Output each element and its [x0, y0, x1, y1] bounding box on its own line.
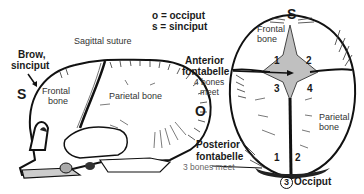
posterior-fontanelle-label-1: Posterior [196, 140, 240, 150]
bone-number-1: 1 [274, 56, 280, 66]
lateral-parietal-label: Parietal bone [109, 92, 162, 101]
anterior-fontanelle-label-1: Anterior [185, 56, 224, 66]
bone-number-3: 3 [274, 84, 280, 94]
anterior-fontanelle-label-2: fontabelle [182, 67, 229, 77]
occiput-label-group: 3Occiput [280, 176, 331, 189]
lateral-o-marker: O [195, 104, 206, 118]
posterior-bone-number-1: 1 [274, 153, 280, 163]
occiput-number-circle: 3 [280, 176, 293, 189]
anterior-note-1: 4 bones [194, 78, 224, 87]
posterior-fontanelle-label-2: fontabelle [196, 152, 243, 162]
posterior-bone-number-2: 2 [295, 153, 301, 163]
top-parietal-label-1: Parietal [319, 113, 350, 122]
lateral-frontal-label-1: Frontal [42, 87, 70, 96]
bone-number-2: 2 [306, 56, 312, 66]
top-frontal-label-2: bone [257, 35, 277, 44]
anterior-note-2: meet [200, 88, 219, 97]
bone-number-4: 4 [307, 84, 313, 94]
lateral-s-marker: S [17, 87, 26, 101]
lateral-frontal-label-2: bone [48, 97, 68, 106]
top-parietal-label-2: bone [319, 123, 339, 132]
posterior-note: 3 bones meet [183, 163, 235, 172]
top-frontal-label-1: Frontal [257, 25, 285, 34]
occiput-label: Occiput [294, 176, 331, 187]
top-s-marker: S [287, 7, 296, 21]
